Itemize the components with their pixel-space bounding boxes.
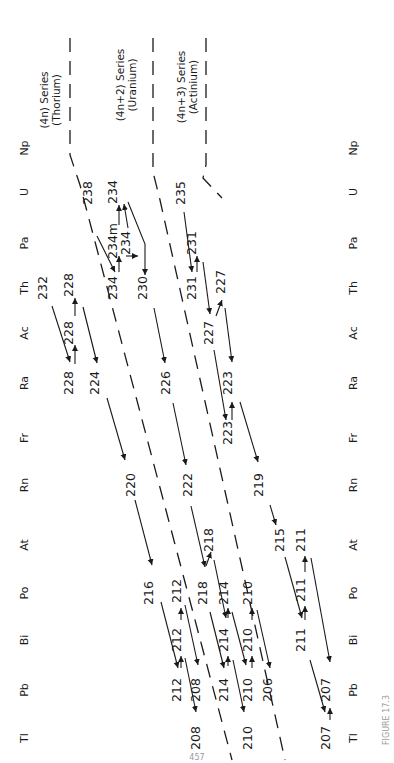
nuclide-mass-label: 208 [188, 726, 203, 750]
nuclide-mass-label: 212 [169, 678, 184, 702]
nuclide-mass-label: 219 [251, 473, 266, 497]
series-label-name: (Uranium) [126, 58, 138, 111]
element-label-tl: Tl [18, 733, 31, 744]
element-label-right-ac: Ac [347, 326, 360, 339]
element-label-right-np: Np [347, 140, 360, 155]
actinium-boundary-line [203, 38, 222, 198]
element-label-right-at: At [347, 538, 360, 550]
nuclide-mass-label: 234 [105, 276, 120, 300]
nuclide-labels: 2322282282282242202162122122122082082382… [35, 180, 333, 750]
decay-series-diagram: NpUPaThAcRaFrRnAtPoBiPbTl NpUPaThAcRaFrR… [0, 0, 394, 763]
element-axis-right: NpUPaThAcRaFrRnAtPoBiPbTl [347, 140, 360, 744]
element-label-right-rn: Rn [347, 478, 360, 493]
nuclide-mass-label: 211 [293, 628, 308, 652]
nuclide-mass-label: 210 [240, 581, 255, 605]
nuclide-mass-label: 211 [293, 528, 308, 552]
element-label-right-th: Th [347, 281, 360, 296]
nuclide-mass-label: 210 [240, 628, 255, 652]
element-label-right-u: U [347, 188, 360, 196]
nuclide-mass-label: 232 [35, 276, 50, 300]
element-label-pa: Pa [18, 237, 31, 250]
figure-caption: FIGURE 17.3 [382, 695, 391, 745]
thorium-boundary-line [70, 38, 232, 760]
series-label-name: (Thorium) [50, 74, 62, 126]
nuclide-mass-label: 212 [169, 579, 184, 603]
element-label-bi: Bi [18, 635, 31, 646]
nuclide-mass-label: 223 [220, 421, 235, 445]
series-label: (4n+2) Series [114, 49, 126, 122]
series-label: (4n+3) Series [175, 51, 187, 124]
element-label-right-pa: Pa [347, 237, 360, 250]
nuclide-mass-label: 224 [87, 371, 102, 395]
nuclide-mass-label: 226 [158, 371, 173, 395]
element-label-u: U [18, 188, 31, 196]
nuclide-mass-label: 228 [61, 371, 76, 395]
nuclide-mass-label: 223 [220, 371, 235, 395]
nuclide-mass-label: 231 [184, 231, 199, 255]
element-axis-left: NpUPaThAcRaFrRnAtPoBiPbTl [18, 140, 31, 744]
nuclide-mass-label: 230 [135, 276, 150, 300]
nuclide-mass-label: 207 [318, 726, 333, 750]
nuclide-mass-label: 208 [188, 678, 203, 702]
element-label-at: At [18, 538, 31, 550]
nuclide-mass-label: 228 [61, 321, 76, 345]
element-label-np: Np [18, 140, 31, 155]
decay-series-figure: NpUPaThAcRaFrRnAtPoBiPbTl NpUPaThAcRaFrR… [0, 0, 394, 763]
nuclide-mass-label: 210 [240, 678, 255, 702]
nuclide-mass-label: 210 [240, 726, 255, 750]
nuclide-mass-label: 228 [61, 273, 76, 297]
element-label-right-ra: Ra [347, 376, 360, 390]
nuclide-mass-label: 222 [180, 473, 195, 497]
element-label-ra: Ra [18, 376, 31, 390]
series-label-name: (Actinium) [187, 60, 199, 114]
element-label-po: Po [18, 586, 31, 599]
nuclide-mass-label: 211 [293, 578, 308, 602]
nuclide-mass-label: 238 [80, 181, 95, 205]
nuclide-mass-label: 215 [272, 528, 287, 552]
nuclide-mass-label: 206 [260, 678, 275, 702]
element-label-pb: Pb [18, 683, 31, 697]
element-label-rn: Rn [18, 478, 31, 493]
element-label-right-fr: Fr [347, 433, 360, 444]
page-number: 457 [189, 753, 204, 762]
nuclide-mass-label: 212 [169, 628, 184, 652]
nuclide-mass-label: 216 [141, 581, 156, 605]
nuclide-mass-label: 214 [216, 678, 231, 702]
nuclide-mass-label: 235 [173, 181, 188, 205]
nuclide-mass-label: 220 [123, 473, 138, 497]
series-labels: (4n) Series(Thorium)(4n+2) Series(Uraniu… [38, 49, 199, 129]
element-label-ac: Ac [18, 326, 31, 339]
element-label-right-po: Po [347, 586, 360, 599]
nuclide-mass-label: 234 [118, 231, 133, 255]
element-label-th: Th [18, 281, 31, 296]
nuclide-mass-label: 218 [201, 528, 216, 552]
nuclide-mass-label: 218 [195, 581, 210, 605]
element-label-right-bi: Bi [347, 635, 360, 646]
nuclide-mass-label: 214 [216, 581, 231, 605]
nuclide-mass-label: 227 [213, 270, 228, 294]
element-label-fr: Fr [18, 433, 31, 444]
element-label-right-pb: Pb [347, 683, 360, 697]
nuclide-mass-label: 207 [318, 678, 333, 702]
series-label: (4n) Series [38, 71, 50, 128]
element-label-right-tl: Tl [347, 733, 360, 744]
nuclide-mass-label: 234 [105, 180, 120, 204]
nuclide-mass-label: 227 [201, 321, 216, 345]
nuclide-mass-label: 214 [216, 628, 231, 652]
nuclide-mass-label: 231 [184, 276, 199, 300]
